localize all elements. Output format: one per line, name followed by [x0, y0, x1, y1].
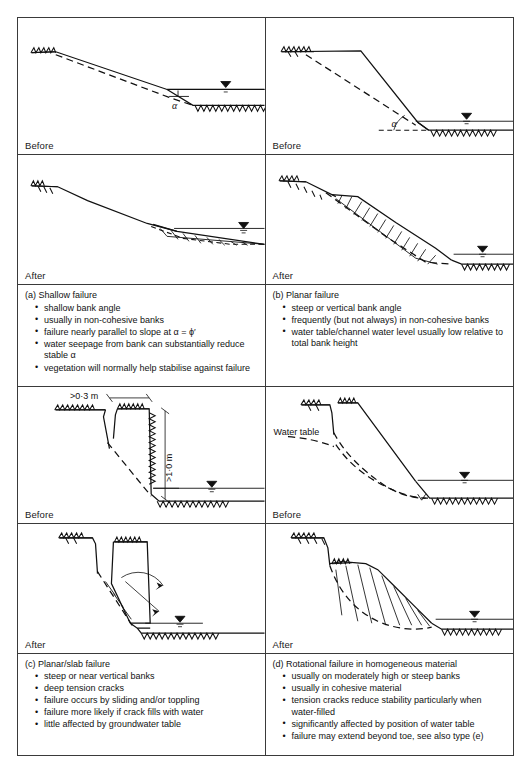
list-item: frequently (but not always) in non-cohes… [292, 315, 508, 327]
bank-height-dimension-label: >1·0 m [164, 453, 174, 481]
list-item: usually on moderately high or steep bank… [292, 671, 508, 683]
list-item: usually in non-cohesive banks [44, 315, 259, 327]
stage-label-after-c: After [25, 639, 46, 650]
panel-c-after-diagram: After [18, 524, 265, 654]
panel-c: >0·3 m >1·0 m Before [18, 387, 266, 756]
panel-b-after-diagram: After [266, 155, 514, 285]
panel-a-bullet-list: shallow bank angle usually in non-cohesi… [24, 303, 259, 375]
list-item: little affected by groundwater table [44, 719, 259, 731]
panel-b-caption: (b) Planar failure steep or vertical ban… [266, 285, 514, 386]
panel-a: α Before [18, 18, 266, 387]
stage-label-after-b: After [273, 270, 294, 281]
panel-d-bullet-list: usually on moderately high or steep bank… [272, 671, 508, 743]
panel-d-caption: (d) Rotational failure in homogeneous ma… [266, 654, 514, 756]
panel-b: α Before [266, 18, 514, 387]
panel-b-before-diagram: α Before [266, 18, 514, 155]
list-item: vegetation will normally help stabilise … [44, 363, 259, 375]
panel-b-title: (b) Planar failure [272, 290, 508, 302]
list-item: usually in cohesive material [292, 683, 508, 695]
stage-label-before-a: Before [25, 140, 54, 151]
list-item: steep or vertical bank angle [292, 303, 508, 315]
panel-a-title: (a) Shallow failure [24, 290, 259, 302]
list-item: failure may extend beyond toe, see also … [292, 731, 508, 743]
list-item: tension cracks reduce stability particul… [292, 695, 508, 718]
panel-c-bullet-list: steep or near vertical banks deep tensio… [24, 671, 259, 731]
list-item: failure nearly parallel to slope at α = … [44, 327, 259, 339]
stage-label-after-d: After [273, 639, 294, 650]
crack-width-dimension-label: >0·3 m [70, 391, 98, 401]
list-item: water seepage from bank can substantiall… [44, 339, 259, 362]
list-item: significantly affected by position of wa… [292, 719, 508, 731]
list-item: water table/channel water level usually … [292, 327, 508, 350]
stage-label-before-b: Before [273, 140, 302, 151]
list-item: deep tension cracks [44, 683, 259, 695]
panel-a-before-diagram: α Before [18, 18, 265, 155]
angle-alpha-label-a: α [172, 100, 177, 111]
list-item: failure occurs by sliding and/or topplin… [44, 695, 259, 707]
list-item: steep or near vertical banks [44, 671, 259, 683]
panel-a-after-diagram: After [18, 155, 265, 285]
panel-c-caption: (c) Planar/slab failure steep or near ve… [18, 654, 265, 756]
panel-a-caption: (a) Shallow failure shallow bank angle u… [18, 285, 265, 386]
water-table-label: Water table [274, 427, 320, 438]
stage-label-after-a: After [25, 270, 46, 281]
stage-label-before-d: Before [273, 509, 302, 520]
panel-c-before-diagram: >0·3 m >1·0 m Before [18, 387, 265, 524]
list-item: failure more likely if crack fills with … [44, 707, 259, 719]
panel-b-bullet-list: steep or vertical bank angle frequently … [272, 303, 508, 350]
panel-c-title: (c) Planar/slab failure [24, 659, 259, 671]
panel-d-after-diagram: After [266, 524, 514, 654]
panel-d-before-diagram: Water table Before [266, 387, 514, 524]
panel-d-title: (d) Rotational failure in homogeneous ma… [272, 659, 508, 671]
bank-failure-figure: α Before [17, 17, 514, 756]
panel-d: Water table Before [266, 387, 514, 756]
angle-alpha-label-b: α [392, 118, 397, 129]
list-item: shallow bank angle [44, 303, 259, 315]
stage-label-before-c: Before [25, 509, 54, 520]
